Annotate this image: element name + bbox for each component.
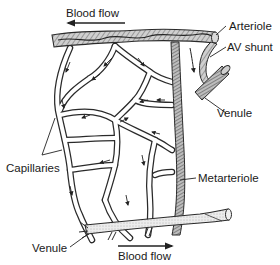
capillary-network: [57, 46, 172, 240]
venule-label-bottom: Venule: [32, 242, 67, 254]
capillaries-label: Capillaries: [6, 162, 60, 174]
metarteriole-vessel: [171, 42, 194, 235]
blood-flow-label-bottom: Blood flow: [118, 250, 172, 262]
metarteriole-label: Metarteriole: [198, 172, 259, 184]
blood-flow-label-top: Blood flow: [66, 7, 120, 19]
venule-label-right: Venule: [217, 107, 252, 119]
bottom-venule-vessel: [79, 209, 232, 240]
av-shunt-label: AV shunt: [227, 41, 274, 53]
capillary-bed-diagram: Blood flow Arteriole AV shunt Venule Cap…: [0, 0, 280, 265]
arteriole-label: Arteriole: [229, 20, 272, 32]
arteriole-vessel: [52, 29, 219, 47]
